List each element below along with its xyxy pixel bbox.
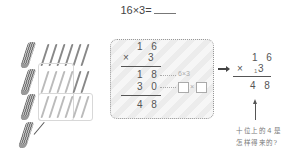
calc-result: 4 8 — [137, 99, 160, 110]
dotted-leader — [160, 87, 176, 88]
divider-line — [233, 76, 271, 77]
calc-multiplier: 3 — [148, 52, 157, 63]
arrow-icon — [34, 122, 45, 135]
stick-icon — [80, 44, 89, 66]
detailed-calculation-panel — [110, 39, 214, 119]
compact-multiplier: 3 — [258, 63, 267, 74]
calc-partial-2: 3 0 — [137, 81, 160, 92]
stick-bundle-icon — [20, 42, 36, 68]
stick-bundle-icon — [18, 122, 34, 148]
dotted-leader — [160, 75, 176, 76]
question-line-2: 怎样得来的? — [236, 137, 278, 147]
question-line-1: 十位上的４是 — [236, 125, 281, 135]
compact-multiplicand: 1 6 — [252, 52, 275, 63]
answer-blank[interactable] — [154, 4, 176, 14]
stick-bundle-icon — [20, 69, 36, 95]
stick-bundle-icon — [20, 94, 36, 120]
problem-expression: 16×3= — [120, 4, 151, 16]
calc-multiplicand: 1 6 — [137, 41, 160, 52]
partial-2-times: × — [190, 83, 194, 90]
arrow-up-icon — [255, 103, 256, 120]
calc-times-sign: × — [123, 52, 132, 63]
divider-line — [121, 95, 161, 96]
divider-line — [121, 66, 161, 67]
stick-icon — [80, 71, 89, 93]
blank-box-1[interactable] — [178, 82, 189, 93]
arrow-up-head — [253, 99, 257, 104]
calc-partial-1: 1 8 — [137, 69, 160, 80]
partial-1-note: 6×3 — [178, 70, 190, 77]
compact-times-sign: × — [237, 63, 246, 74]
compact-carry: 1 — [254, 68, 257, 74]
compact-result: 4 8 — [250, 80, 273, 91]
problem-title: 16×3= — [0, 4, 296, 16]
arrow-right-head — [226, 66, 230, 72]
blank-box-2[interactable] — [196, 82, 207, 93]
